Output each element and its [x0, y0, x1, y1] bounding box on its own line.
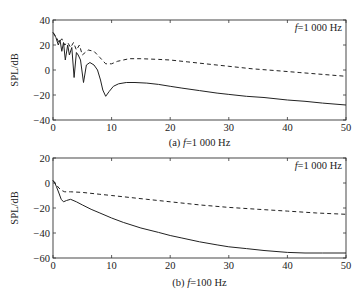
panel-caption: (a) f=1 000 Hz: [169, 137, 231, 149]
plot-frame: [53, 158, 346, 258]
x-tick-label: 50: [341, 122, 352, 133]
y-tick-label: −40: [34, 115, 50, 126]
y-axis-label: SPL/dB: [9, 191, 20, 224]
x-tick-label: 0: [50, 122, 55, 133]
x-tick-label: 40: [282, 260, 293, 271]
chart-panel-b: 01020304050−60−40−20020SPL/dBf=1 000 Hz(…: [9, 153, 351, 290]
x-tick-label: 50: [341, 260, 352, 271]
dashed-line-series: [53, 181, 346, 215]
frequency-annotation: f=1 000 Hz: [295, 22, 343, 33]
frequency-annotation: f=1 000 Hz: [295, 160, 343, 171]
y-tick-label: 20: [40, 153, 51, 164]
y-tick-label: −60: [34, 253, 50, 264]
y-tick-label: −40: [34, 228, 50, 239]
x-tick-label: 30: [224, 260, 235, 271]
x-tick-label: 10: [106, 122, 117, 133]
x-tick-label: 10: [106, 260, 117, 271]
y-tick-label: −20: [34, 90, 50, 101]
x-tick-label: 40: [282, 122, 293, 133]
y-axis-label: SPL/dB: [9, 53, 20, 86]
solid-line-series: [53, 33, 346, 106]
y-tick-label: 0: [45, 178, 50, 189]
x-tick-label: 20: [165, 122, 176, 133]
x-tick-label: 0: [50, 260, 55, 271]
solid-line-series: [53, 181, 346, 254]
y-tick-label: 40: [40, 15, 51, 26]
figure: 01020304050−40−2002040SPL/dBf=1 000 Hz(a…: [0, 0, 362, 298]
panel-caption: (b) f=100 Hz: [172, 277, 227, 289]
x-tick-label: 20: [165, 260, 176, 271]
y-tick-label: 20: [40, 40, 51, 51]
y-tick-label: −20: [34, 203, 50, 214]
y-tick-label: 0: [45, 65, 50, 76]
chart-panel-a: 01020304050−40−2002040SPL/dBf=1 000 Hz(a…: [9, 15, 351, 150]
x-tick-label: 30: [224, 122, 235, 133]
